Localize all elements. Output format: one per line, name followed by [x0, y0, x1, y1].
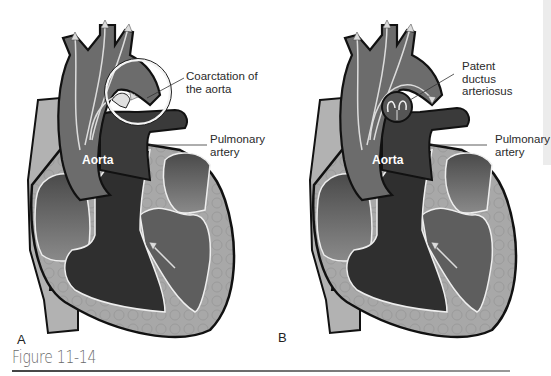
- caption-divider: [12, 370, 510, 372]
- pulmonary-artery-label-a: Pulmonary artery: [210, 133, 265, 158]
- figure-caption: Figure 11-14: [12, 347, 96, 367]
- pulmonary-label-a-line2: artery: [210, 146, 265, 159]
- panel-letter-b: B: [278, 330, 287, 345]
- pda-label-line1: Patent ductus: [462, 60, 532, 85]
- aorta-label-a: Aorta: [82, 153, 113, 167]
- coarctation-label-line2: the aorta: [186, 83, 258, 96]
- coarctation-label: Coarctation of the aorta: [186, 70, 258, 95]
- panel-a-coarctation-diagram: Aorta Coarctation of the aorta Pulmonary…: [0, 0, 280, 345]
- panel-letter-a: A: [17, 332, 26, 347]
- pda-label-line2: arteriosus: [462, 85, 532, 98]
- panel-b-pda-diagram: Aorta Patent ductus arteriosus Pulmonary…: [282, 0, 532, 345]
- coarctation-label-line1: Coarctation of: [186, 70, 258, 83]
- pda-label: Patent ductus arteriosus: [462, 60, 532, 98]
- pulmonary-artery-label-b: Pulmonary artery: [495, 133, 550, 158]
- heart-illustration-b: [282, 0, 532, 345]
- aorta-label-b: Aorta: [372, 153, 403, 167]
- heart-illustration-a: [0, 0, 280, 345]
- pulmonary-label-a-line1: Pulmonary: [210, 133, 265, 146]
- pulmonary-label-b-line2: artery: [495, 146, 550, 159]
- pulmonary-label-b-line1: Pulmonary: [495, 133, 550, 146]
